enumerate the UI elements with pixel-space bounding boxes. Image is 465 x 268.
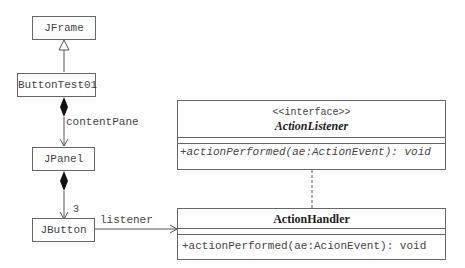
interface-stereotype: <<interface>> xyxy=(178,107,445,119)
interface-name: ActionListener xyxy=(178,119,445,133)
class-jframe: JFrame xyxy=(32,16,96,40)
class-jbutton: JButton xyxy=(32,218,95,242)
interface-method: +actionPerformed(ae:ActionEvent): void xyxy=(178,143,445,161)
interface-actionlistener: <<interface>> ActionListener +actionPerf… xyxy=(177,100,446,170)
handler-name: ActionHandler xyxy=(178,210,445,228)
class-buttontest01: ButtonTest01 xyxy=(17,73,96,97)
listener-label: listener xyxy=(100,214,153,226)
handler-method: +actionPerformed(ae:AcionEvent): void xyxy=(178,234,445,257)
content-pane-label: contentPane xyxy=(66,116,139,128)
class-actionhandler: ActionHandler +actionPerformed(ae:AcionE… xyxy=(177,208,446,260)
class-jpanel: JPanel xyxy=(32,147,95,171)
multiplicity-label: 3 xyxy=(73,204,79,215)
